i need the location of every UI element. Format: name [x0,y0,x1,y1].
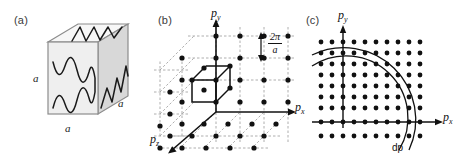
panel-b-unit-cell [192,66,230,102]
cube-dimension-label-right: a [118,97,124,109]
spacing-numerator: 2π [268,32,282,44]
spacing-denominator: a [268,44,282,55]
lattice-spacing-annotation: 2π a [268,32,282,55]
panel-b-lattice-drawing [148,0,303,160]
panel-b: (b) [148,0,303,160]
panel-a-cube-drawing [0,0,150,160]
panel-c-axis-label-py: py [338,8,348,24]
panel-c-lattice-drawing [298,0,460,160]
panel-b-axis-label-pz: pz [150,132,159,148]
panel-c: (c) [298,0,460,160]
panel-b-depth-gridlines [160,36,194,136]
cube-dimension-label-bottom: a [65,122,71,134]
shell-thickness-label: dp [392,142,403,153]
panel-a: (a) a a a [0,0,150,160]
panel-b-axis-label-py: py [211,6,221,22]
cube-dimension-label-left: a [33,72,39,84]
figure-root: (a) a a a (b) [0,0,460,160]
panel-c-axis-label-px: px [443,110,453,126]
shell-arc-inner [312,56,408,150]
panel-c-lattice-dots [319,40,423,139]
